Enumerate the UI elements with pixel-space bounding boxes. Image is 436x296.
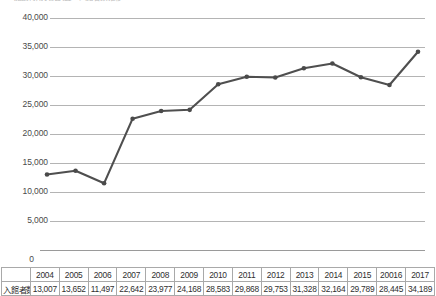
table-year-cell: 2005 — [59, 268, 88, 282]
table-row-label: 入館者数 — [2, 282, 31, 296]
data-point-2009 — [187, 108, 192, 113]
table-value-cell: 34,189 — [406, 282, 435, 296]
chart-series-line — [0, 10, 436, 258]
table-value-cell: 29,753 — [261, 282, 290, 296]
table-value-cell: 11,497 — [88, 282, 117, 296]
table-year-cell: 2009 — [175, 268, 204, 282]
data-point-2017 — [416, 49, 421, 54]
table-year-cell: 2011 — [232, 268, 261, 282]
table-year-cell: 2008 — [146, 268, 175, 282]
table-value-cell: 24,168 — [175, 282, 204, 296]
table-year-cell: 2017 — [406, 268, 435, 282]
table-year-cell: 2015 — [348, 268, 377, 282]
table-year-cell: 2004 — [30, 268, 59, 282]
data-point-2013 — [302, 66, 307, 71]
table-value-cell: 31,328 — [290, 282, 319, 296]
table-value-cell: 29,789 — [348, 282, 377, 296]
table-value-cell: 13,007 — [30, 282, 59, 296]
data-point-2008 — [159, 109, 164, 114]
data-point-2006 — [102, 181, 107, 186]
table-year-cell: 2012 — [261, 268, 290, 282]
data-point-2015 — [359, 75, 364, 80]
series-polyline — [47, 52, 418, 184]
table-value-cell: 28,583 — [204, 282, 233, 296]
chart-page: 施設利用状況調査 入館者数推移 5,00010,00015,00020,0002… — [0, 0, 436, 296]
table-year-cell: 2014 — [319, 268, 348, 282]
data-point-2011 — [244, 74, 249, 79]
table-year-cell: 2007 — [117, 268, 146, 282]
table-year-cell: 20016 — [377, 268, 406, 282]
table-value-cell: 32,164 — [319, 282, 348, 296]
clipped-chart-title: 施設利用状況調査 入館者数推移 — [0, 0, 436, 5]
table-value-cell: 23,977 — [146, 282, 175, 296]
table-value-cell: 13,652 — [59, 282, 88, 296]
data-point-2012 — [273, 75, 278, 80]
data-point-2005 — [73, 169, 78, 174]
table-year-cell: 2010 — [204, 268, 233, 282]
table-year-cell: 2006 — [88, 268, 117, 282]
data-point-20016 — [387, 83, 392, 88]
chart-data-table: 2004200520062007200820092010201120122013… — [0, 267, 436, 296]
table-year-cell: 2013 — [290, 268, 319, 282]
table-corner-cell — [2, 268, 31, 282]
chart-title-text: 施設利用状況調査 入館者数推移 — [0, 0, 436, 3]
data-point-2007 — [130, 116, 135, 121]
table-value-cell: 28,445 — [377, 282, 406, 296]
chart-plot-area: 5,00010,00015,00020,00025,00030,00035,00… — [0, 10, 436, 258]
table-value-cell: 22,642 — [117, 282, 146, 296]
data-point-2014 — [330, 61, 335, 66]
table-row-values: 入館者数 13,00713,65211,49722,64223,97724,16… — [2, 282, 435, 296]
data-point-2004 — [45, 172, 50, 177]
table-value-cell: 29,868 — [232, 282, 261, 296]
data-point-2010 — [216, 82, 221, 87]
table-row-years: 2004200520062007200820092010201120122013… — [2, 268, 435, 282]
